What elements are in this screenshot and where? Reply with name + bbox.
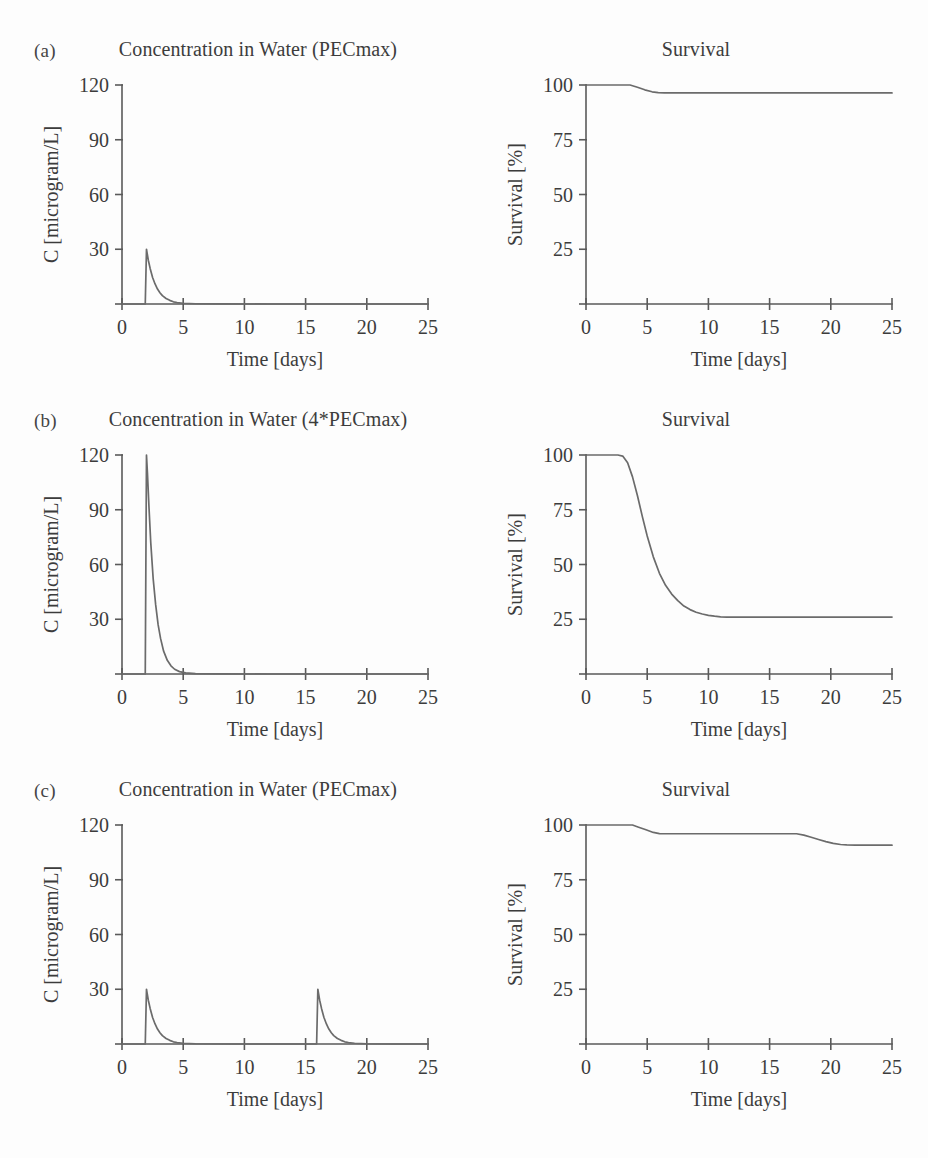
y-tick-label: 90 [89,499,109,521]
y-tick-label: 100 [543,444,573,466]
y-tick-label: 100 [543,74,573,96]
y-tick-label: 25 [553,238,573,260]
x-tick-label: 25 [882,316,902,338]
x-tick-label: 25 [882,686,902,708]
chart-c-survival: 2550751000510152025Time [days]Survival [… [464,758,928,1128]
panel-a-concentration: (a) Concentration in Water (PECmax) 3060… [0,18,464,388]
x-tick-label: 25 [418,686,438,708]
y-tick-label: 90 [89,129,109,151]
x-tick-label: 0 [117,316,127,338]
x-tick-label: 0 [581,1056,591,1078]
x-tick-label: 15 [760,316,780,338]
chart-b-survival: 2550751000510152025Time [days]Survival [… [464,388,928,758]
chart-c-concentration: 3060901200510152025Time [days]C [microgr… [0,758,464,1128]
plot-axes [122,85,428,304]
y-axis-title: C [microgram/L] [40,126,63,263]
x-axis-title: Time [days] [691,718,787,741]
x-tick-label: 15 [760,1056,780,1078]
x-axis-title: Time [days] [227,718,323,741]
x-tick-label: 10 [234,316,254,338]
panel-b-survival: Survival 2550751000510152025Time [days]S… [464,388,928,758]
data-curve [122,249,428,304]
data-curve [586,455,892,617]
x-tick-label: 10 [698,316,718,338]
y-tick-label: 60 [89,924,109,946]
x-tick-label: 0 [581,686,591,708]
y-tick-label: 30 [89,978,109,1000]
x-tick-label: 10 [698,686,718,708]
plot-axes [122,825,428,1044]
panel-a-survival: Survival 2550751000510152025Time [days]S… [464,18,928,388]
y-tick-label: 50 [553,184,573,206]
x-tick-label: 20 [357,686,377,708]
y-tick-label: 75 [553,869,573,891]
x-tick-label: 20 [821,316,841,338]
y-tick-label: 30 [89,608,109,630]
y-tick-label: 50 [553,554,573,576]
chart-a-survival: 2550751000510152025Time [days]Survival [… [464,18,928,388]
y-tick-label: 100 [543,814,573,836]
y-axis-title: Survival [%] [504,143,526,246]
y-axis-title: C [microgram/L] [40,866,63,1003]
y-tick-label: 120 [79,444,109,466]
y-axis-title: C [microgram/L] [40,496,63,633]
x-tick-label: 5 [642,1056,652,1078]
x-tick-label: 20 [821,686,841,708]
x-tick-label: 5 [178,686,188,708]
data-curve [122,989,428,1044]
x-tick-label: 25 [418,1056,438,1078]
x-tick-label: 5 [642,316,652,338]
x-tick-label: 25 [418,316,438,338]
x-tick-label: 20 [821,1056,841,1078]
x-tick-label: 5 [178,1056,188,1078]
y-tick-label: 25 [553,608,573,630]
x-axis-title: Time [days] [227,1088,323,1111]
plot-axes [122,455,428,674]
panel-b-concentration: (b) Concentration in Water (4*PECmax) 30… [0,388,464,758]
x-axis-title: Time [days] [691,1088,787,1111]
panel-c-concentration: (c) Concentration in Water (PECmax) 3060… [0,758,464,1128]
panel-row-b: (b) Concentration in Water (4*PECmax) 30… [0,388,928,758]
data-curve [122,455,428,674]
x-tick-label: 0 [117,686,127,708]
x-tick-label: 20 [357,316,377,338]
y-tick-label: 120 [79,74,109,96]
y-tick-label: 75 [553,499,573,521]
x-tick-label: 15 [296,686,316,708]
panel-c-survival: Survival 2550751000510152025Time [days]S… [464,758,928,1128]
plot-axes [586,825,892,1044]
y-tick-label: 75 [553,129,573,151]
x-tick-label: 15 [760,686,780,708]
y-tick-label: 90 [89,869,109,891]
x-tick-label: 5 [178,316,188,338]
x-tick-label: 15 [296,316,316,338]
x-tick-label: 0 [117,1056,127,1078]
x-axis-title: Time [days] [227,348,323,371]
x-tick-label: 25 [882,1056,902,1078]
y-tick-label: 25 [553,978,573,1000]
x-tick-label: 10 [698,1056,718,1078]
chart-b-concentration: 3060901200510152025Time [days]C [microgr… [0,388,464,758]
y-tick-label: 50 [553,924,573,946]
x-tick-label: 5 [642,686,652,708]
x-tick-label: 15 [296,1056,316,1078]
figure-canvas: (a) Concentration in Water (PECmax) 3060… [0,0,928,1158]
y-tick-label: 30 [89,238,109,260]
data-curve [586,85,892,93]
x-axis-title: Time [days] [691,348,787,371]
y-tick-label: 60 [89,184,109,206]
y-axis-title: Survival [%] [504,883,526,986]
x-tick-label: 0 [581,316,591,338]
x-tick-label: 20 [357,1056,377,1078]
y-tick-label: 60 [89,554,109,576]
panel-row-a: (a) Concentration in Water (PECmax) 3060… [0,18,928,388]
x-tick-label: 10 [234,1056,254,1078]
y-tick-label: 120 [79,814,109,836]
chart-a-concentration: 3060901200510152025Time [days]C [microgr… [0,18,464,388]
plot-axes [586,85,892,304]
plot-axes [586,455,892,674]
data-curve [586,825,892,845]
y-axis-title: Survival [%] [504,513,526,616]
x-tick-label: 10 [234,686,254,708]
panel-row-c: (c) Concentration in Water (PECmax) 3060… [0,758,928,1128]
